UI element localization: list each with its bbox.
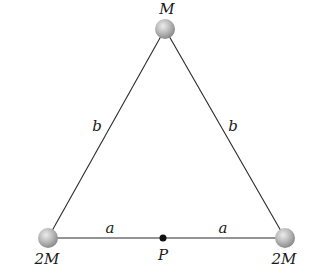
side-left-label: b	[92, 119, 102, 134]
side-right-label: b	[228, 119, 238, 134]
base-right-label: a	[219, 221, 228, 236]
base-left-label: a	[106, 221, 115, 236]
side-left-b	[48, 29, 165, 238]
mass-bottom-right-sphere	[275, 228, 295, 248]
mass-top-sphere	[155, 19, 175, 39]
mass-bottom-right-label: 2M	[272, 252, 297, 267]
mass-bottom-left-sphere	[38, 228, 58, 248]
mass-bottom-left-label: 2M	[35, 252, 60, 267]
mass-top-label: M	[159, 2, 174, 17]
point-p-label: P	[158, 248, 168, 263]
side-right-b	[165, 29, 285, 238]
point-p-dot	[160, 235, 167, 242]
triangle-mass-diagram	[0, 0, 311, 279]
